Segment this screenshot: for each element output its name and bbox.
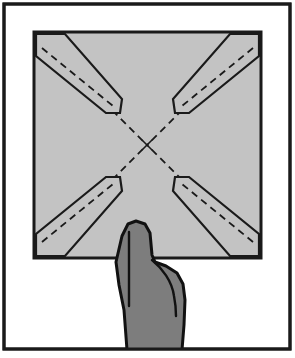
origami-fold-diagram (0, 0, 295, 358)
figure-root: A square sheet of gray paper with four n… (0, 0, 295, 358)
